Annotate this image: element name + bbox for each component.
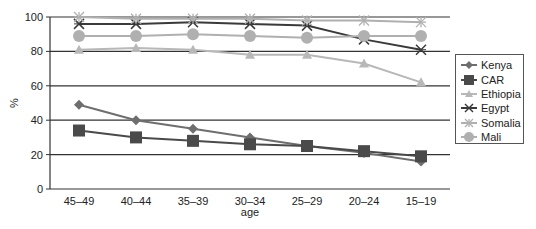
diamond-marker-icon	[460, 59, 478, 71]
y-tick-label: 80	[31, 45, 43, 57]
x-marker-icon	[460, 102, 478, 114]
series-kenya	[74, 100, 426, 167]
y-tick-label: 60	[31, 80, 43, 92]
x-axis-label: age	[241, 206, 259, 218]
legend-item-kenya: Kenya	[460, 58, 523, 72]
square-marker-icon	[460, 74, 478, 86]
axes	[50, 17, 450, 189]
x-tick-label: 15–19	[406, 195, 437, 207]
circle-marker-icon	[460, 131, 478, 143]
legend-label: Mali	[481, 131, 501, 143]
legend-item-mali: Mali	[460, 130, 523, 144]
y-tick-label: 0	[37, 183, 43, 195]
star-marker-icon	[460, 117, 478, 129]
legend-item-egypt: Egypt	[460, 101, 523, 115]
series-lines	[73, 12, 427, 166]
series-ethiopia	[74, 43, 426, 86]
x-tick-label: 25–29	[292, 195, 323, 207]
series-car	[73, 125, 427, 163]
legend-item-car: CAR	[460, 72, 523, 86]
legend-label: CAR	[481, 74, 504, 86]
legend-item-somalia: Somalia	[460, 116, 523, 130]
y-axis-ticks: 020406080100	[25, 11, 50, 195]
legend-label: Somalia	[481, 117, 521, 129]
triangle-marker-icon	[460, 88, 478, 100]
y-tick-label: 100	[25, 11, 43, 23]
x-tick-label: 45–49	[64, 195, 95, 207]
legend-label: Kenya	[481, 59, 512, 71]
legend-item-ethiopia: Ethiopia	[460, 87, 523, 101]
legend-label: Egypt	[481, 102, 509, 114]
x-tick-label: 20–24	[349, 195, 380, 207]
y-axis-label: %	[8, 98, 20, 108]
legend-label: Ethiopia	[481, 88, 521, 100]
y-tick-label: 40	[31, 114, 43, 126]
y-tick-label: 20	[31, 149, 43, 161]
x-tick-label: 40–44	[121, 195, 152, 207]
x-tick-label: 35–39	[178, 195, 209, 207]
legend: KenyaCAREthiopiaEgyptSomaliaMali	[455, 54, 524, 144]
